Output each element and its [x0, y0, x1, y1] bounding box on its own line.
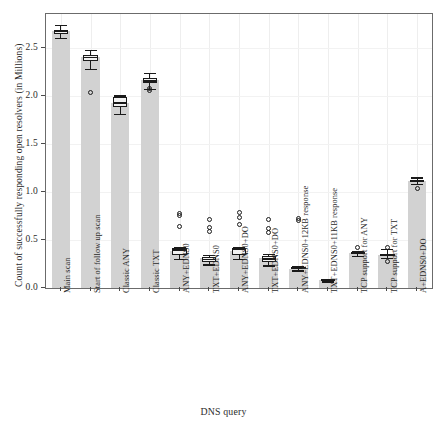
gridline-horizontal — [46, 96, 432, 97]
boxplot-whisker-cap-upper — [55, 25, 67, 26]
x-axis-tick-label: Main scan — [63, 257, 72, 293]
x-axis-tick-label: TCP support for TXT — [390, 219, 399, 293]
x-axis-tick-mark — [297, 287, 298, 291]
x-axis-tick-mark — [179, 287, 180, 291]
x-axis-tick-mark — [149, 287, 150, 291]
x-axis-tick-mark — [60, 287, 61, 291]
y-axis-tick-label: 0.5 — [26, 234, 38, 244]
y-axis-tick-label: 2.0 — [26, 90, 38, 100]
x-axis-tick-label: TCP support for ANY — [360, 217, 369, 293]
y-axis-tick-label: 1.0 — [26, 186, 38, 196]
boxplot-whisker-cap-lower — [55, 38, 67, 39]
x-axis-tick-mark — [327, 287, 328, 291]
gridline-vertical — [209, 14, 210, 288]
x-axis-title: DNS query — [0, 406, 447, 417]
boxplot-outlier — [266, 217, 271, 222]
boxplot-median — [410, 180, 424, 181]
boxplot-outlier — [177, 224, 182, 229]
x-axis-tick-mark — [386, 287, 387, 291]
boxplot-outlier — [237, 215, 242, 220]
x-axis-tick-label: Classic ANY — [122, 248, 131, 293]
boxplot-whisker-cap-lower — [85, 69, 97, 70]
x-axis-tick-label: A+EDNS0+DO — [419, 238, 428, 293]
y-axis-tick-mark — [41, 95, 45, 96]
chart-figure: Count of successfully responding open re… — [0, 0, 447, 435]
boxplot-median — [83, 57, 97, 58]
x-axis-tick-mark — [357, 287, 358, 291]
x-axis-tick-mark — [416, 287, 417, 291]
boxplot-median — [143, 80, 157, 81]
boxplot-outlier — [177, 213, 182, 218]
y-axis-tick-label: 1.5 — [26, 138, 38, 148]
boxplot-whisker-cap-upper — [85, 50, 97, 51]
y-axis-tick-label: 2.5 — [26, 42, 38, 52]
x-axis-tick-label: TXT+EDNS0+DO — [271, 228, 280, 293]
y-axis-title: Count of successfully responding open re… — [13, 43, 24, 287]
x-axis-tick-label: TXT+EDNS0+11KB response — [330, 188, 339, 293]
y-axis-tick-mark — [41, 191, 45, 192]
gridline-vertical — [269, 14, 270, 288]
x-axis-tick-mark — [90, 287, 91, 291]
boxplot-outlier — [415, 186, 420, 191]
plot-area — [45, 13, 433, 289]
boxplot-median — [113, 102, 127, 103]
x-axis-tick-label: ANY+EDNS0+12KB response — [301, 186, 310, 293]
gridline-horizontal — [46, 240, 432, 241]
x-axis-tick-label: ANY+EDNS0 — [182, 243, 191, 293]
boxplot-median — [54, 31, 68, 32]
x-axis-tick-label: TXT+EDNS0 — [212, 245, 221, 293]
x-axis-tick-label: Start of follow up scan — [93, 214, 102, 293]
boxplot-outlier — [207, 229, 212, 234]
y-axis-tick-mark — [41, 143, 45, 144]
boxplot-outlier — [237, 210, 242, 215]
boxplot-whisker-cap-lower — [114, 114, 126, 115]
y-axis-tick-mark — [41, 47, 45, 48]
gridline-vertical — [328, 14, 329, 288]
boxplot-whisker-cap-lower — [411, 184, 423, 185]
x-axis-tick-mark — [119, 287, 120, 291]
y-axis-tick-label: 0.0 — [26, 282, 38, 292]
gridline-vertical — [298, 14, 299, 288]
x-axis-tick-mark — [208, 287, 209, 291]
y-axis-tick-mark — [41, 239, 45, 240]
y-axis-tick-mark — [41, 287, 45, 288]
gridline-horizontal — [46, 144, 432, 145]
bar — [52, 31, 70, 288]
x-axis-tick-mark — [238, 287, 239, 291]
x-axis-tick-mark — [268, 287, 269, 291]
gridline-horizontal — [46, 192, 432, 193]
boxplot-outlier — [207, 217, 212, 222]
boxplot-whisker-cap-upper — [411, 177, 423, 178]
x-axis-tick-label: ANY+EDNS0+DO — [241, 226, 250, 293]
x-axis-tick-label: Classic TXT — [152, 249, 161, 293]
boxplot-whisker-cap-upper — [144, 73, 156, 74]
gridline-horizontal — [46, 48, 432, 49]
plot-inner — [46, 14, 432, 288]
